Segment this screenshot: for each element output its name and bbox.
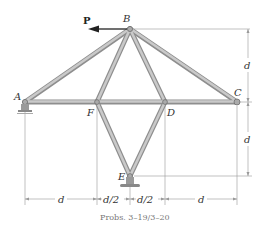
horizontal-dimension: d d/2 d/2 d	[25, 193, 237, 205]
dim-label-half-d-left: d/2	[103, 194, 119, 205]
joint-label-D: D	[166, 107, 175, 118]
joint-label-A: A	[13, 91, 21, 102]
joint-label-F: F	[86, 107, 95, 118]
figure-caption: Probs. 3–19/3–20	[100, 213, 170, 222]
load-arrow-P: P	[83, 15, 127, 33]
dim-label-d-left: d	[58, 194, 64, 205]
dim-label-d-right: d	[198, 194, 204, 205]
vertical-dimension: d d	[242, 29, 254, 176]
truss-members	[25, 29, 237, 177]
dim-label-upper-d: d	[244, 60, 250, 71]
truss-diagram: d d d d/2 d/2 d	[0, 0, 265, 231]
dim-label-lower-d: d	[244, 134, 250, 145]
joint-label-E: E	[117, 171, 126, 182]
joint-label-C: C	[234, 87, 242, 98]
load-label-P: P	[83, 15, 91, 26]
dimension-extension-lines	[25, 29, 252, 205]
dim-label-half-d-right: d/2	[137, 194, 153, 205]
joint-label-B: B	[122, 13, 130, 24]
